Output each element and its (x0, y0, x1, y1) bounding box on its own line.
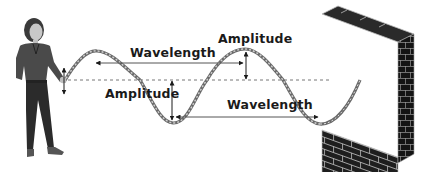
amplitude-left-label: Amplitude (105, 88, 179, 101)
wave-diagram: Wavelength Amplitude Amplitude Wavelengt… (0, 0, 422, 172)
wavelength-top-label: Wavelength (130, 47, 216, 60)
amplitude-top-label: Amplitude (218, 33, 292, 46)
person-holding-rope (16, 18, 66, 157)
wavelength-bottom-label: Wavelength (227, 99, 313, 112)
brick-wall (322, 6, 414, 172)
